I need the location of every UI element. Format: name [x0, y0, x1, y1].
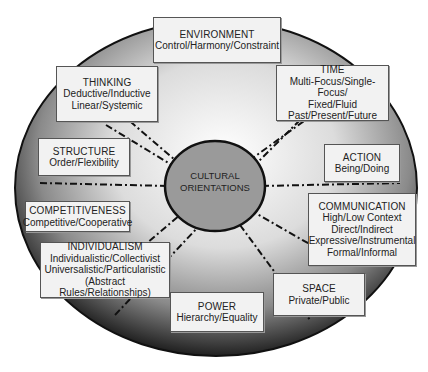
box-line: Multi-Focus/Single-Focus/	[277, 76, 388, 99]
box-line: Deductive/Inductive	[63, 88, 150, 100]
box-line: Control/Harmony/Constraint	[155, 40, 279, 52]
box-line: Expressive/Instrumental	[309, 235, 416, 247]
box-individualism: INDIVIDUALISM Individualistic/Collectivi…	[40, 242, 170, 298]
box-title: ACTION	[343, 152, 381, 164]
box-line: Private/Public	[288, 295, 349, 307]
box-title: TIME	[320, 64, 344, 76]
box-line: Hierarchy/Equality	[176, 312, 257, 324]
box-structure: STRUCTURE Order/Flexibility	[38, 138, 130, 176]
box-line: Fixed/Fluid	[308, 99, 357, 111]
box-line: High/Low Context	[323, 212, 402, 224]
center-label: CULTURAL ORIENTATIONS	[165, 170, 265, 194]
box-title: SPACE	[302, 283, 336, 295]
box-title: STRUCTURE	[53, 146, 116, 158]
box-action: ACTION Being/Doing	[324, 144, 400, 182]
center-label-line1: CULTURAL	[165, 170, 265, 182]
box-line: Order/Flexibility	[49, 157, 118, 169]
box-title: INDIVIDUALISM	[67, 241, 142, 253]
center-label-line2: ORIENTATIONS	[165, 182, 265, 194]
box-title: THINKING	[83, 77, 132, 89]
box-line: Competitive/Cooperative	[23, 217, 133, 229]
box-competitiveness: COMPETITIVENESS Competitive/Cooperative	[25, 201, 130, 232]
box-line: Formal/Informal	[327, 247, 397, 259]
box-thinking: THINKING Deductive/Inductive Linear/Syst…	[56, 66, 158, 122]
box-line: Universalistic/Particularistic	[44, 264, 165, 276]
box-line: Individualistic/Collectivist	[50, 253, 160, 265]
box-title: COMPETITIVENESS	[29, 205, 126, 217]
box-line: Direct/Indirect	[331, 224, 393, 236]
box-line: Linear/Systemic	[71, 100, 142, 112]
box-line: (Abstract Rules/Relationships)	[41, 276, 169, 299]
box-line: Being/Doing	[335, 163, 389, 175]
box-space: SPACE Private/Public	[273, 273, 365, 316]
box-title: POWER	[198, 301, 236, 313]
box-power: POWER Hierarchy/Equality	[170, 292, 264, 332]
box-time: TIME Multi-Focus/Single-Focus/ Fixed/Flu…	[276, 65, 389, 121]
box-title: ENVIRONMENT	[180, 29, 255, 41]
box-line: Past/Present/Future	[288, 110, 377, 122]
box-title: COMMUNICATION	[318, 201, 405, 213]
box-environment: ENVIRONMENT Control/Harmony/Constraint	[153, 17, 281, 63]
box-communication: COMMUNICATION High/Low Context Direct/In…	[308, 193, 416, 266]
